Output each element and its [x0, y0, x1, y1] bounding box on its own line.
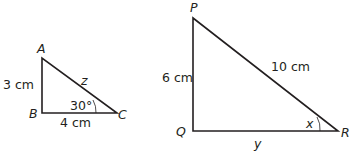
side-bc-label: 4 cm — [60, 115, 91, 130]
triangle-abc: A B C 3 cm 4 cm z 30° — [3, 41, 127, 130]
angle-c-label: 30° — [70, 98, 92, 113]
vertex-b-label: B — [29, 106, 38, 121]
angle-r-arc — [317, 117, 320, 131]
vertex-p-label: P — [190, 0, 198, 15]
vertex-r-label: R — [341, 125, 350, 140]
side-qr-label: y — [253, 136, 262, 151]
diagram-canvas: A B C 3 cm 4 cm z 30° P Q R 6 cm 10 cm y… — [0, 0, 356, 159]
triangle-pqr-shape — [193, 18, 338, 131]
angle-r-label: x — [305, 116, 314, 131]
side-ac-label: z — [80, 73, 88, 88]
side-pr-label: 10 cm — [271, 59, 310, 74]
vertex-c-label: C — [118, 107, 127, 122]
vertex-a-label: A — [36, 41, 46, 56]
triangle-pqr: P Q R 6 cm 10 cm y x — [162, 0, 350, 151]
vertex-q-label: Q — [176, 124, 186, 139]
angle-c-arc — [93, 100, 96, 113]
side-pq-label: 6 cm — [162, 70, 193, 85]
side-ab-label: 3 cm — [3, 77, 34, 92]
